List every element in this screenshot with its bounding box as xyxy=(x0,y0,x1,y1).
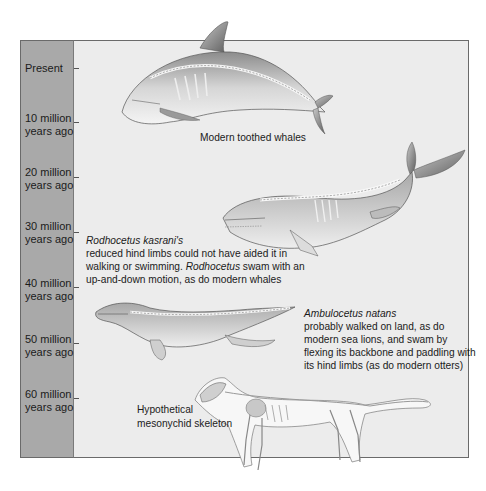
caption-ambulocetus: Ambulocetus natans probably walked on la… xyxy=(304,307,476,372)
caption-modern-whales: Modern toothed whales xyxy=(200,131,306,144)
ambulocetus-species-name: Ambulocetus natans xyxy=(304,308,396,319)
rodhocetus-species-name: Rodhocetus kasrani's xyxy=(86,235,183,246)
toothed-whale-illustration xyxy=(122,22,333,134)
caption-mesonychid: Hypothetical mesonychid skeleton xyxy=(137,403,232,431)
ambulocetus-illustration xyxy=(96,303,295,360)
caption-rodhocetus: Rodhocetus kasrani's reduced hind limbs … xyxy=(86,234,305,286)
